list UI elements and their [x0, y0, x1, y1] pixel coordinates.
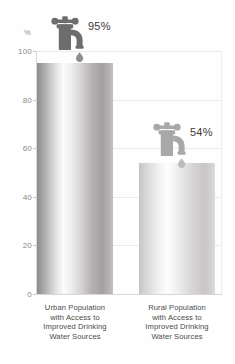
category-label-urban-line1: Urban Population	[26, 303, 124, 313]
category-label-rural-line4: Water Sources	[128, 332, 226, 342]
category-label-urban: Urban Population with Access to Improved…	[26, 303, 124, 341]
faucet-icon-urban	[49, 14, 89, 64]
y-tick-label-40: 40	[23, 192, 32, 201]
tickmark-20	[33, 245, 36, 246]
y-tick-label-20: 20	[23, 241, 32, 250]
category-label-urban-line2: with Access to	[26, 313, 124, 323]
y-tick-label-100: 100	[18, 47, 32, 56]
category-label-urban-line3: Improved Drinking	[26, 322, 124, 332]
value-label-urban: 95%	[88, 20, 111, 32]
y-axis-unit-label: %	[24, 28, 31, 37]
faucet-icon-rural	[151, 120, 191, 170]
category-label-urban-line4: Water Sources	[26, 332, 124, 342]
tickmark-60	[33, 148, 36, 149]
water-droplet-icon	[178, 158, 185, 168]
x-axis-line	[36, 294, 222, 295]
bar-rural-population[interactable]	[139, 163, 215, 294]
category-label-rural-line1: Rural Population	[128, 303, 226, 313]
value-label-rural: 54%	[190, 126, 213, 138]
plot-right-border	[221, 51, 222, 294]
faucet-icon-glyph	[49, 14, 89, 64]
category-label-rural-line3: Improved Drinking	[128, 322, 226, 332]
y-tick-label-80: 80	[23, 95, 32, 104]
tickmark-100	[33, 51, 36, 52]
tickmark-0	[33, 294, 36, 295]
chart-container: % 100 80 60 40 20 0	[0, 0, 235, 364]
bar-urban-population[interactable]	[37, 63, 113, 294]
y-tick-label-0: 0	[27, 290, 32, 299]
category-label-rural-line2: with Access to	[128, 313, 226, 323]
faucet-icon-glyph	[151, 120, 191, 170]
tickmark-80	[33, 100, 36, 101]
category-label-rural: Rural Population with Access to Improved…	[128, 303, 226, 341]
water-droplet-icon	[76, 52, 83, 62]
y-tick-label-60: 60	[23, 144, 32, 153]
tickmark-40	[33, 197, 36, 198]
